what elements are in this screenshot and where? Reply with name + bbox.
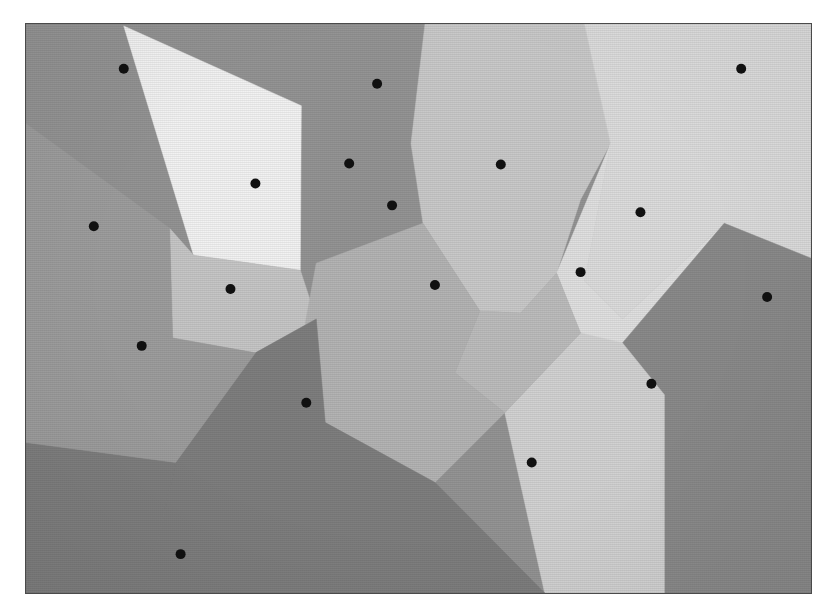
voronoi-site-point <box>225 284 235 294</box>
voronoi-diagram <box>26 24 811 593</box>
voronoi-site-point <box>430 280 440 290</box>
voronoi-site-point <box>137 341 147 351</box>
voronoi-site-point <box>301 398 311 408</box>
voronoi-site-point <box>496 160 506 170</box>
voronoi-site-point <box>176 549 186 559</box>
voronoi-site-point <box>762 292 772 302</box>
voronoi-figure-frame <box>25 23 812 594</box>
voronoi-region-layer <box>26 24 811 593</box>
voronoi-site-point <box>372 79 382 89</box>
voronoi-site-point <box>344 159 354 169</box>
voronoi-site-point <box>635 207 645 217</box>
voronoi-site-point <box>576 267 586 277</box>
voronoi-site-point <box>527 457 537 467</box>
page-root <box>0 0 837 616</box>
voronoi-site-point <box>89 221 99 231</box>
voronoi-site-point <box>119 64 129 74</box>
voronoi-site-point <box>736 64 746 74</box>
voronoi-site-point <box>646 379 656 389</box>
voronoi-site-point <box>387 200 397 210</box>
voronoi-site-point <box>250 178 260 188</box>
